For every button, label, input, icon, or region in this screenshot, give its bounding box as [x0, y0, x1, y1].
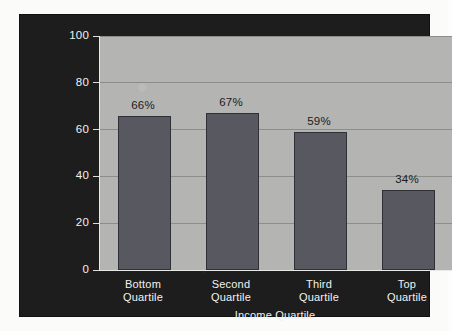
bar[interactable] — [206, 113, 259, 270]
bar[interactable] — [294, 132, 347, 270]
x-axis-title: Income Quartile — [99, 309, 451, 321]
x-category-label: BottomQuartile — [103, 278, 183, 304]
y-tick-label: 0 — [82, 264, 89, 276]
x-category-label-line: Quartile — [367, 291, 447, 304]
y-tick-mark — [93, 176, 99, 177]
x-category-label-line: Quartile — [279, 291, 359, 304]
y-tick-mark — [93, 223, 99, 224]
plot-area — [99, 36, 452, 271]
bar-value-label: 66% — [113, 99, 173, 111]
gridline — [100, 36, 452, 37]
x-category-label-line: Third — [279, 278, 359, 291]
y-tick-mark — [93, 129, 99, 130]
y-tick-mark — [93, 270, 99, 271]
bar[interactable] — [382, 190, 435, 270]
x-category-label-line: Second — [191, 278, 271, 291]
bar[interactable] — [118, 116, 171, 270]
bar-value-label: 67% — [201, 96, 261, 108]
x-category-label: SecondQuartile — [191, 278, 271, 304]
x-category-label-line: Quartile — [191, 291, 271, 304]
bar-value-label: 34% — [377, 173, 437, 185]
y-tick-label: 40 — [76, 170, 89, 182]
y-tick-label: 60 — [76, 124, 89, 136]
gridline — [100, 82, 452, 83]
y-tick-label: 100 — [69, 30, 89, 42]
bar-value-label: 59% — [289, 115, 349, 127]
x-category-label: ThirdQuartile — [279, 278, 359, 304]
x-category-label-line: Bottom — [103, 278, 183, 291]
y-tick-mark — [93, 82, 99, 83]
chart-panel-background: Percentage with Federal Loans Income Qua… — [19, 14, 430, 317]
x-category-label-line: Top — [367, 278, 447, 291]
y-tick-mark — [93, 36, 99, 37]
x-category-label: TopQuartile — [367, 278, 447, 304]
y-tick-label: 80 — [76, 77, 89, 89]
x-category-label-line: Quartile — [103, 291, 183, 304]
y-tick-label: 20 — [76, 217, 89, 229]
